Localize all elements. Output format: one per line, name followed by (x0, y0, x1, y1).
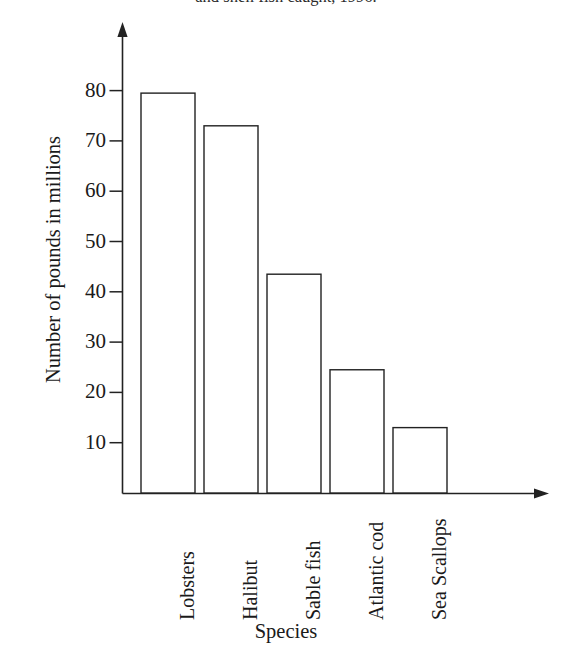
bar-chart: and shell fish caught, 1996. 10203040506… (0, 0, 572, 652)
x-axis-arrow-icon (534, 489, 549, 499)
y-axis-tick-label: 30 (66, 331, 106, 352)
x-axis-category-label: Sable fish (303, 541, 323, 620)
bar (267, 274, 321, 493)
y-axis-tick-label: 60 (66, 180, 106, 201)
y-axis-tick-labels: 1020304050607080 (60, 0, 106, 500)
x-axis-category-label: Lobsters (177, 551, 197, 620)
y-axis-tick-label: 70 (66, 130, 106, 151)
bar (204, 126, 258, 493)
y-axis-title: Number of pounds in millions (42, 110, 65, 410)
y-axis-tick-label: 20 (66, 381, 106, 402)
y-axis-tick-label: 50 (66, 231, 106, 252)
x-axis-category-label: Sea Scallops (429, 518, 449, 620)
bars-group (141, 93, 447, 493)
bar (393, 428, 447, 493)
y-axis-arrow-icon (117, 22, 127, 37)
y-axis-tick-label: 10 (66, 432, 106, 453)
x-axis-category-label: Halibut (240, 560, 260, 620)
bar (141, 93, 195, 493)
x-axis-category-label: Atlantic cod (366, 522, 386, 620)
y-axis-ticks (110, 91, 123, 443)
x-axis-title: Species (0, 620, 572, 643)
y-axis-tick-label: 40 (66, 281, 106, 302)
y-axis-tick-label: 80 (66, 80, 106, 101)
bar (330, 370, 384, 493)
